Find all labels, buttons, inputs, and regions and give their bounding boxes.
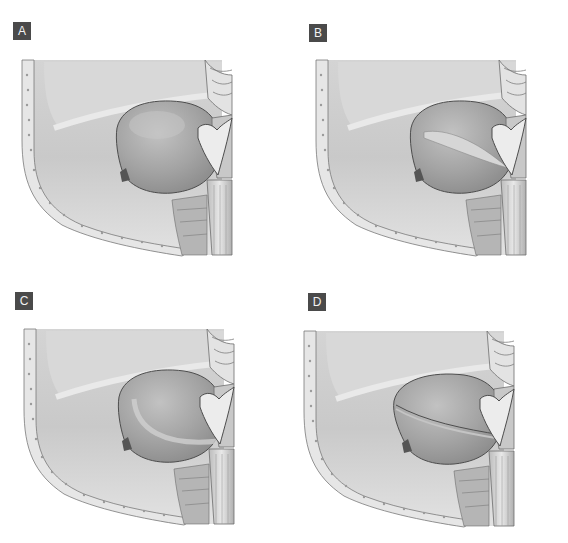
- anatomy-illustration-c: [0, 271, 284, 542]
- panel-d: D: [284, 271, 568, 542]
- anatomy-illustration-a: [0, 0, 284, 271]
- anatomy-illustration-b: [284, 0, 568, 271]
- anatomy-illustration-d: [284, 271, 568, 542]
- panel-b: B: [284, 0, 568, 271]
- panel-c: C: [0, 271, 284, 542]
- panel-a: A: [0, 0, 284, 271]
